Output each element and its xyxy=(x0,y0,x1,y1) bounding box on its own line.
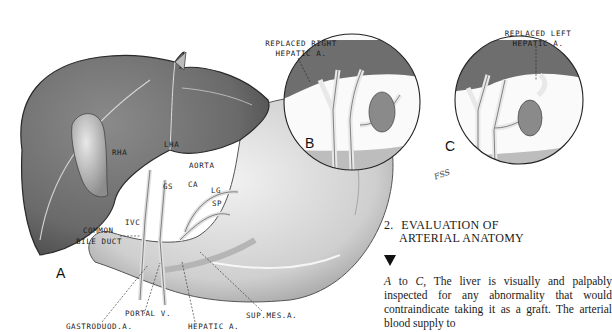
label-sup-mes-a: SUP.MES.A. xyxy=(246,311,297,320)
caption-ref-c: C, xyxy=(416,275,427,287)
triangle-marker-icon xyxy=(384,255,396,266)
label-gs: GS xyxy=(163,182,173,191)
label-portal-v: PORTAL V. xyxy=(125,309,171,318)
label-lg: LG xyxy=(211,186,221,195)
caption-heading-line2: ARTERIAL ANATOMY xyxy=(384,232,612,245)
label-common-bile-duct-1: COMMON xyxy=(83,226,114,235)
figure-caption: 2. EVALUATION OF ARTERIAL ANATOMY A to C… xyxy=(384,219,612,330)
label-replaced-right-2: HEPATIC A. xyxy=(248,49,354,58)
label-ivc: IVC xyxy=(125,218,140,227)
label-hepatic-a: HEPATIC A. xyxy=(188,322,239,331)
caption-heading: 2. EVALUATION OF ARTERIAL ANATOMY xyxy=(384,219,612,245)
label-sp: SP xyxy=(212,199,222,208)
label-replaced-right-1: REPLACED RIGHT xyxy=(248,39,354,48)
panel-letter-b: B xyxy=(305,135,314,151)
panel-c-drawing xyxy=(450,36,590,175)
caption-ref-a: A xyxy=(384,275,391,287)
label-replaced-left-1: REPLACED LEFT xyxy=(494,29,582,38)
label-rha: RHA xyxy=(112,148,127,157)
label-lha: LHA xyxy=(164,140,179,149)
label-ca: CA xyxy=(188,180,198,189)
caption-to: to xyxy=(391,275,416,287)
label-common-bile-duct-2: BILE DUCT xyxy=(76,237,122,246)
panel-letter-a: A xyxy=(56,265,65,281)
caption-body: A to C, The liver is visually and palpab… xyxy=(384,274,612,330)
label-aorta: AORTA xyxy=(189,161,215,170)
caption-heading-line1: EVALUATION OF xyxy=(401,218,498,232)
label-gastroduod-a: GASTRODUOD.A. xyxy=(66,322,133,331)
caption-number: 2. xyxy=(384,219,398,232)
panel-letter-c: C xyxy=(445,138,455,154)
label-replaced-left-2: HEPATIC A. xyxy=(494,39,582,48)
